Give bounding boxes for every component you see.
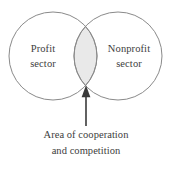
- profit-sector-label-line1: Profit: [31, 43, 56, 54]
- arrow-head-icon: [82, 85, 91, 97]
- caption-line-1: Area of cooperation: [0, 127, 172, 143]
- venn-diagram-figure: Profit sector Nonprofit sector Area of c…: [0, 0, 172, 171]
- profit-sector-label: Profit sector: [12, 42, 74, 72]
- nonprofit-sector-label-line2: sector: [116, 58, 142, 69]
- annotation-arrow: [82, 85, 91, 126]
- profit-sector-label-line2: sector: [30, 58, 56, 69]
- nonprofit-sector-label: Nonprofit sector: [93, 42, 165, 72]
- figure-caption: Area of cooperation and competition: [0, 127, 172, 159]
- nonprofit-sector-label-line1: Nonprofit: [108, 43, 150, 54]
- caption-line-2: and competition: [0, 143, 172, 159]
